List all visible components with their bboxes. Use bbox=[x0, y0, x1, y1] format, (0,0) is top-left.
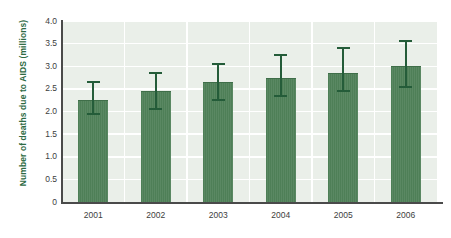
error-bar-cap-upper bbox=[212, 63, 225, 65]
error-bar-line bbox=[92, 82, 94, 114]
x-tick-label: 2001 bbox=[62, 210, 124, 220]
x-tick-label: 2005 bbox=[312, 210, 374, 220]
y-tick-label: 0 bbox=[31, 198, 57, 207]
y-tick-label: 3.5 bbox=[31, 39, 57, 48]
x-axis-spine bbox=[61, 202, 443, 204]
error-bar-cap-lower bbox=[149, 108, 162, 110]
error-bar-cap-lower bbox=[337, 90, 350, 92]
gridline-vertical bbox=[186, 21, 188, 202]
y-axis-title: Number of deaths due to AIDS (millions) bbox=[16, 3, 30, 203]
plot-area bbox=[62, 21, 437, 202]
error-bar-line bbox=[155, 73, 157, 109]
error-bar-line bbox=[342, 48, 344, 91]
x-tick-label: 2006 bbox=[375, 210, 437, 220]
y-tick-label: 0.5 bbox=[31, 175, 57, 184]
x-tick-label: 2003 bbox=[187, 210, 249, 220]
error-bar-cap-lower bbox=[399, 86, 412, 88]
y-tick-label: 1.5 bbox=[31, 130, 57, 139]
chart-figure: Number of deaths due to AIDS (millions) … bbox=[0, 0, 451, 238]
gridline-vertical bbox=[374, 21, 376, 202]
error-bar-line bbox=[280, 55, 282, 96]
error-bar-cap-upper bbox=[87, 81, 100, 83]
error-bar-cap-lower bbox=[212, 99, 225, 101]
error-bar-cap-upper bbox=[337, 47, 350, 49]
y-tick-label: 4.0 bbox=[31, 17, 57, 26]
y-tick-label: 2.0 bbox=[31, 107, 57, 116]
bar bbox=[328, 73, 358, 203]
error-bar-cap-lower bbox=[87, 113, 100, 115]
error-bar-cap-upper bbox=[149, 72, 162, 74]
y-tick-label: 1.0 bbox=[31, 152, 57, 161]
error-bar-cap-upper bbox=[399, 40, 412, 42]
error-bar-line bbox=[217, 64, 219, 100]
y-tick-label: 2.5 bbox=[31, 84, 57, 93]
x-tick-label: 2004 bbox=[250, 210, 312, 220]
gridline-vertical bbox=[311, 21, 313, 202]
y-axis-spine bbox=[61, 20, 63, 203]
y-tick-label: 3.0 bbox=[31, 62, 57, 71]
error-bar-cap-upper bbox=[274, 54, 287, 56]
gridline-vertical bbox=[249, 21, 251, 202]
x-tick-label: 2002 bbox=[125, 210, 187, 220]
error-bar-cap-lower bbox=[274, 95, 287, 97]
bar bbox=[78, 100, 108, 203]
error-bar-line bbox=[405, 41, 407, 86]
gridline-vertical bbox=[124, 21, 126, 202]
